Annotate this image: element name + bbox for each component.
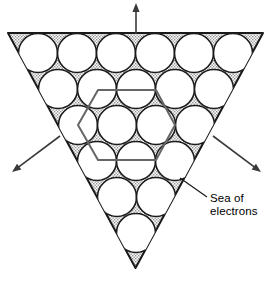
- atom: [58, 34, 97, 73]
- sea-of-electrons-label-line2: electrons: [210, 205, 258, 218]
- atom: [136, 34, 175, 73]
- atom: [98, 106, 137, 145]
- atom: [175, 34, 214, 73]
- atom: [137, 106, 176, 145]
- atom: [156, 70, 195, 109]
- sea-of-electrons-label-line1: Sea of: [210, 192, 244, 205]
- atom: [97, 34, 136, 73]
- metallic-bonding-diagram: [0, 0, 275, 281]
